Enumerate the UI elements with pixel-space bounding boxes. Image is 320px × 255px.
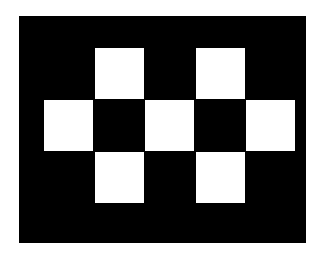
middle-center-square: [145, 100, 194, 151]
top-left-square: [95, 48, 144, 99]
bottom-right-square: [196, 152, 245, 203]
black-board: [19, 16, 306, 243]
middle-left-square: [44, 100, 93, 151]
bottom-left-square: [95, 152, 144, 203]
top-right-square: [196, 48, 245, 99]
middle-right-square: [246, 100, 295, 151]
